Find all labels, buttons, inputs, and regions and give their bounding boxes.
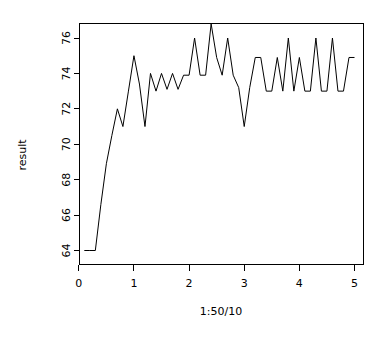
y-tick-label: 76 xyxy=(60,31,73,45)
x-axis-title: 1:50/10 xyxy=(200,305,242,318)
x-tick-label: 3 xyxy=(241,277,248,290)
y-tick-label: 70 xyxy=(60,137,73,151)
plot-background xyxy=(0,0,387,338)
x-tick-label: 1 xyxy=(130,277,137,290)
y-tick-label: 72 xyxy=(60,102,73,116)
x-tick-label: 2 xyxy=(186,277,193,290)
x-tick-label: 4 xyxy=(296,277,303,290)
y-tick-label: 66 xyxy=(60,208,73,222)
y-tick-label: 74 xyxy=(60,66,73,80)
y-tick-label: 68 xyxy=(60,173,73,187)
x-tick-label: 0 xyxy=(75,277,82,290)
plot-canvas: 64666870727476 012345 result 1:50/10 xyxy=(0,0,387,338)
x-tick-label: 5 xyxy=(351,277,358,290)
r-plot-figure: 64666870727476 012345 result 1:50/10 xyxy=(0,0,387,338)
y-tick-label: 64 xyxy=(60,244,73,258)
y-axis-title: result xyxy=(16,139,29,171)
